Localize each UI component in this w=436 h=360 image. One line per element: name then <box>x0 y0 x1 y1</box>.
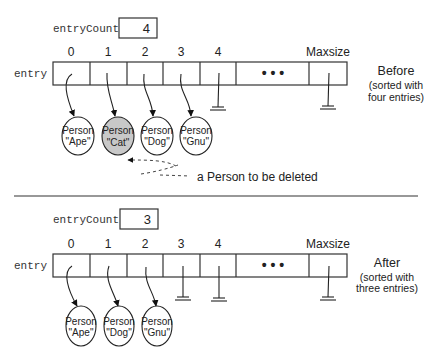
index-label: 1 <box>105 45 112 59</box>
reference-arrow <box>144 74 153 116</box>
deletion-pointer-arrow <box>128 160 176 166</box>
entry-array <box>53 254 347 277</box>
entry-count-box <box>119 18 157 38</box>
svg-text:"Cat": "Cat" <box>107 137 130 148</box>
svg-text:"Ape": "Ape" <box>66 136 91 147</box>
deletion-pointer-line <box>141 165 178 174</box>
person-node: Person "Gnu" <box>180 117 212 155</box>
array-deletion-diagram: entryCount 4 0 1 2 3 4 Maxsize entry • •… <box>0 0 436 360</box>
before-title: Before <box>378 64 415 78</box>
index-label: 4 <box>215 45 222 59</box>
svg-text:"Ape": "Ape" <box>69 327 94 338</box>
person-node-deleted: Person "Cat" <box>102 117 134 155</box>
svg-text:"Gnu": "Gnu" <box>183 136 209 147</box>
index-label: 0 <box>68 237 75 251</box>
entry-array-label: entry <box>14 68 47 80</box>
reference-arrow <box>146 267 156 306</box>
svg-text:Person: Person <box>103 316 135 327</box>
svg-text:Person: Person <box>141 316 173 327</box>
before-subtitle: four entries) <box>368 91 424 103</box>
person-node: Person "Gnu" <box>141 306 173 346</box>
svg-text:Person: Person <box>62 125 94 136</box>
svg-text:Person: Person <box>65 316 97 327</box>
person-node: Person "Ape" <box>65 306 97 346</box>
null-reference-icon <box>320 266 336 300</box>
entry-count-label: entryCount <box>53 23 119 35</box>
deletion-pointer-line <box>160 175 190 176</box>
null-reference-icon <box>211 266 227 301</box>
index-label: 4 <box>215 237 222 251</box>
svg-text:"Dog": "Dog" <box>144 136 170 147</box>
entry-array <box>53 62 347 85</box>
entry-array-label: entry <box>14 260 47 272</box>
maxsize-label: Maxsize <box>306 45 350 59</box>
null-reference-icon <box>175 266 191 300</box>
svg-text:"Gnu": "Gnu" <box>144 327 170 338</box>
before-subtitle: (sorted with <box>369 79 423 91</box>
entry-count-label: entryCount <box>53 214 119 226</box>
svg-text:Person: Person <box>180 125 212 136</box>
before-section: entryCount 4 0 1 2 3 4 Maxsize entry • •… <box>14 18 424 184</box>
person-node: Person "Dog" <box>103 306 135 346</box>
person-node: Person "Ape" <box>62 117 94 155</box>
index-label: 0 <box>68 45 75 59</box>
index-label: 3 <box>178 237 185 251</box>
after-subtitle: three entries) <box>356 282 418 294</box>
maxsize-label: Maxsize <box>306 237 350 251</box>
reference-arrow <box>107 73 115 116</box>
reference-arrow <box>181 74 191 116</box>
after-section: entryCount 3 0 1 2 3 4 Maxsize entry • •… <box>14 209 418 346</box>
null-reference-icon <box>320 73 336 109</box>
person-node: Person "Dog" <box>141 117 173 155</box>
reference-arrow <box>66 74 74 116</box>
null-reference-icon <box>210 73 226 110</box>
entry-count-value: 4 <box>143 21 150 36</box>
entry-count-box <box>120 209 158 229</box>
reference-arrow <box>108 266 118 306</box>
index-label: 2 <box>142 237 149 251</box>
entry-count-value: 3 <box>144 212 151 227</box>
ellipsis: • • • <box>262 257 285 273</box>
reference-arrow <box>67 266 77 306</box>
deletion-annotation: a Person to be deleted <box>197 170 318 184</box>
svg-text:"Dog": "Dog" <box>106 327 132 338</box>
index-label: 1 <box>105 237 112 251</box>
after-title: After <box>374 256 400 270</box>
svg-text:Person: Person <box>141 125 173 136</box>
index-label: 2 <box>142 45 149 59</box>
svg-text:Person: Person <box>102 125 134 136</box>
index-label: 3 <box>178 45 185 59</box>
ellipsis: • • • <box>262 65 285 81</box>
